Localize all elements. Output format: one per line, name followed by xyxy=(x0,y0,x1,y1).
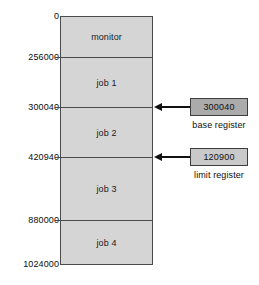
memory-segment-job-3: job 3 xyxy=(61,157,152,220)
address-label: 0 xyxy=(0,11,59,21)
memory-segment-job-2: job 2 xyxy=(61,107,152,157)
segment-label: job 1 xyxy=(96,78,116,88)
base-register-caption: base register xyxy=(174,120,259,130)
memory-segment-job-1: job 1 xyxy=(61,57,152,107)
base-register-box: 300040 xyxy=(190,98,248,116)
memory-segment-monitor: monitor xyxy=(61,17,152,57)
base-register-value: 300040 xyxy=(203,102,234,112)
address-marker-0: 0 xyxy=(0,11,59,22)
segment-label: job 2 xyxy=(96,128,116,138)
address-marker-1024000: 1024000 xyxy=(0,259,59,270)
address-label: 1024000 xyxy=(0,259,59,269)
memory-segment-job-4: job 4 xyxy=(61,220,152,264)
address-marker-880000: 880000 xyxy=(0,215,59,226)
memory-block: monitor job 1 job 2 job 3 job 4 xyxy=(60,16,153,265)
memory-partition-diagram: 0 256000 300040 420940 880000 1024000 mo… xyxy=(0,0,259,285)
address-label: 420940 xyxy=(0,152,59,162)
limit-register-caption: limit register xyxy=(174,170,259,180)
address-label: 300040 xyxy=(0,102,59,112)
segment-label: job 3 xyxy=(96,184,116,194)
address-label: 880000 xyxy=(0,215,59,225)
address-marker-420940: 420940 xyxy=(0,152,59,163)
address-marker-300040: 300040 xyxy=(0,102,59,113)
segment-label: monitor xyxy=(91,32,122,42)
limit-register-arrow-line xyxy=(161,156,190,158)
segment-label: job 4 xyxy=(96,238,116,248)
limit-register-box: 120900 xyxy=(190,148,248,166)
base-register-arrow-line xyxy=(161,106,190,108)
address-marker-256000: 256000 xyxy=(0,52,59,63)
limit-register-value: 120900 xyxy=(203,152,234,162)
address-label: 256000 xyxy=(0,52,59,62)
